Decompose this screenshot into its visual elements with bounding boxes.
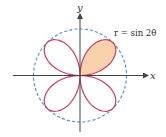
equation-label: r = sin 2θ	[114, 28, 156, 38]
highlighted-petal	[80, 40, 116, 76]
polar-rose-figure: x y r = sin 2θ	[0, 0, 166, 137]
x-axis-label: x	[150, 70, 156, 81]
y-axis-label: y	[76, 2, 83, 13]
